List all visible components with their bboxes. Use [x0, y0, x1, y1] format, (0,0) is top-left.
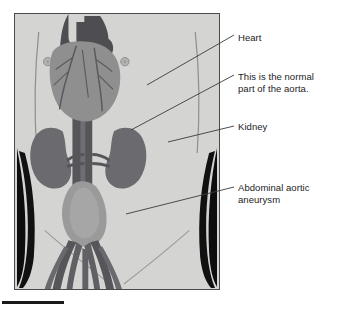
label-normal-aorta: This is the normal part of the aorta. — [238, 71, 314, 94]
median-sacral-vessel — [82, 248, 88, 289]
bottom-rule — [2, 301, 64, 304]
label-heart: Heart — [238, 32, 261, 44]
label-kidney: Kidney — [238, 121, 267, 133]
anatomy-illustration — [15, 14, 219, 289]
figure-frame — [14, 13, 220, 290]
illustration-page: Heart This is the normal part of the aor… — [0, 0, 339, 311]
nipple-marker-left-center — [46, 60, 49, 63]
label-abdominal-aortic-aneurysm: Abdominal aortic aneurysm — [238, 182, 310, 205]
nipple-marker-right-center — [123, 60, 126, 63]
